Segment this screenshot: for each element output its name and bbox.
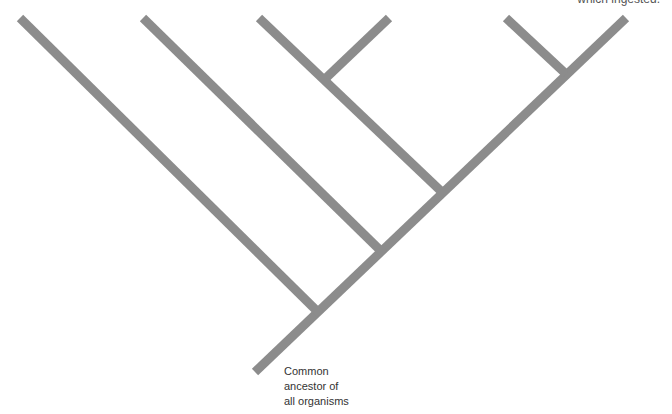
tree-branches [0, 0, 672, 414]
branch-3-sister [326, 18, 389, 78]
branch-3 [259, 18, 444, 194]
root-label-line-1: Common [284, 364, 349, 379]
branch-1 [20, 18, 320, 314]
root-label-line-3: all organisms [284, 394, 349, 409]
root-label: Common ancestor of all organisms [284, 364, 349, 409]
root-label-line-2: ancestor of [284, 379, 349, 394]
top-partial-label: which ingested. [577, 0, 660, 6]
branch-4 [506, 18, 566, 74]
